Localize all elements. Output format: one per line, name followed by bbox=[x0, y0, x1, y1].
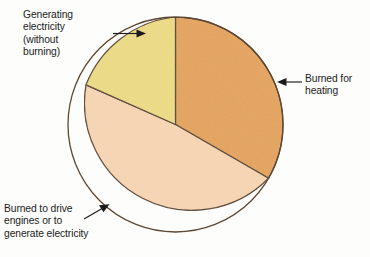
slice-label-burned-to-drive-engines: Burned to drive engines or to generate e… bbox=[4, 203, 116, 240]
pie-chart-figure: Generating electricity (without burning)… bbox=[0, 0, 370, 257]
slice-label-burned-for-heating: Burned for heating bbox=[305, 73, 369, 98]
arrowhead-icon-burned-for-heating bbox=[277, 78, 287, 86]
pie-slices bbox=[84, 17, 283, 210]
leader-burned-for-heating bbox=[277, 78, 302, 86]
slice-label-generating-electricity: Generating electricity (without burning) bbox=[23, 9, 109, 59]
